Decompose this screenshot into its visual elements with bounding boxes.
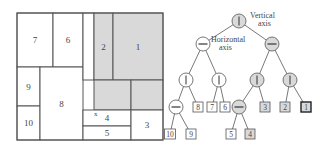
leaf-node-6: 6 (220, 102, 230, 112)
region-10: 10 (17, 106, 40, 140)
vertical-split-node (232, 14, 246, 28)
horizontal-split-node (265, 37, 279, 51)
axis-annotation: axis (258, 19, 271, 28)
leaf-node-8: 8 (193, 102, 203, 112)
svg-text:3: 3 (263, 103, 267, 112)
leaf-node-5: 5 (226, 129, 236, 139)
region-3: 3 (131, 110, 163, 140)
region-unlabeled (94, 80, 131, 110)
region-4: 4 (83, 110, 131, 126)
kd-tree-figure: 76910821453x 87632110954VerticalaxisHori… (0, 0, 328, 151)
region-1: 1 (113, 13, 163, 80)
leaf-node-7: 7 (207, 102, 217, 112)
region-label: 2 (101, 42, 106, 52)
region-label: 9 (26, 82, 31, 92)
kd-tree-diagram: 87632110954VerticalaxisHorizontalaxis (165, 11, 312, 139)
svg-text:9: 9 (189, 130, 193, 139)
region-9: 9 (17, 67, 40, 106)
region-label: 1 (136, 42, 141, 52)
leaf-node-1: 1 (301, 102, 311, 112)
leaf-node-9: 9 (186, 129, 196, 139)
vertical-split-node (250, 73, 264, 87)
point-label-x: x (94, 110, 98, 118)
vertical-split-node (283, 73, 297, 87)
region-unlabeled (83, 13, 94, 80)
leaf-node-2: 2 (280, 102, 290, 112)
spatial-partition-diagram: 76910821453x (17, 13, 163, 140)
region-label: 3 (145, 120, 150, 130)
svg-text:1: 1 (304, 103, 308, 112)
svg-text:8: 8 (196, 103, 200, 112)
leaf-node-10: 10 (165, 129, 176, 139)
horizontal-split-node (169, 100, 183, 114)
vertical-split-node (212, 73, 226, 87)
axis-annotation: axis (219, 43, 232, 52)
region-label: 5 (105, 128, 110, 138)
region-unlabeled (131, 80, 163, 110)
horizontal-split-node (232, 100, 246, 114)
svg-text:7: 7 (210, 103, 214, 112)
region-label: 4 (105, 113, 110, 123)
region-6: 6 (53, 13, 83, 67)
svg-text:4: 4 (248, 130, 252, 139)
svg-text:10: 10 (166, 130, 174, 139)
region-label: 8 (59, 99, 64, 109)
svg-text:2: 2 (283, 103, 287, 112)
region-5: 5 (83, 126, 131, 140)
region-label: 7 (33, 35, 38, 45)
horizontal-split-node (196, 37, 210, 51)
region-label: 10 (24, 118, 34, 128)
svg-text:6: 6 (223, 103, 227, 112)
region-8: 8 (40, 67, 83, 140)
region-2: 2 (94, 13, 113, 80)
figure-svg: 76910821453x 87632110954VerticalaxisHori… (0, 0, 328, 151)
vertical-split-node (179, 73, 193, 87)
region-7: 7 (17, 13, 53, 67)
leaf-node-4: 4 (245, 129, 255, 139)
leaf-node-3: 3 (260, 102, 270, 112)
region-label: 6 (66, 35, 71, 45)
svg-text:5: 5 (229, 130, 233, 139)
